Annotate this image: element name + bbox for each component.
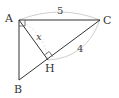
- label-b: B: [14, 83, 22, 96]
- side-bc: [19, 20, 100, 80]
- measure-hc: 4: [77, 43, 83, 54]
- measure-ah: x: [36, 31, 42, 42]
- measure-ac: 5: [57, 5, 63, 16]
- label-c: C: [103, 14, 111, 27]
- triangle-diagram: A C B H 5 4 x: [0, 0, 119, 98]
- label-h: H: [45, 62, 55, 75]
- label-a: A: [4, 12, 14, 25]
